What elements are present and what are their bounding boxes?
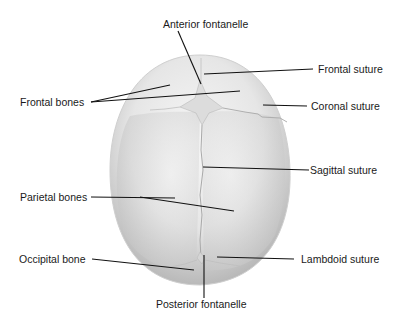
label-lambdoid-suture: Lambdoid suture (301, 253, 379, 265)
label-sagittal-suture: Sagittal suture (310, 164, 377, 176)
parietal-bone-right (202, 111, 285, 270)
label-anterior-fontanelle: Anterior fontanelle (163, 18, 248, 30)
skull-illustration (0, 0, 399, 324)
label-frontal-bones: Frontal bones (20, 96, 84, 108)
skull-diagram: Anterior fontanelle Frontal suture Front… (0, 0, 399, 324)
label-coronal-suture: Coronal suture (311, 100, 380, 112)
label-posterior-fontanelle: Posterior fontanelle (156, 298, 246, 310)
label-occipital-bone: Occipital bone (19, 253, 86, 265)
label-frontal-suture: Frontal suture (318, 63, 383, 75)
label-parietal-bones: Parietal bones (20, 191, 87, 203)
